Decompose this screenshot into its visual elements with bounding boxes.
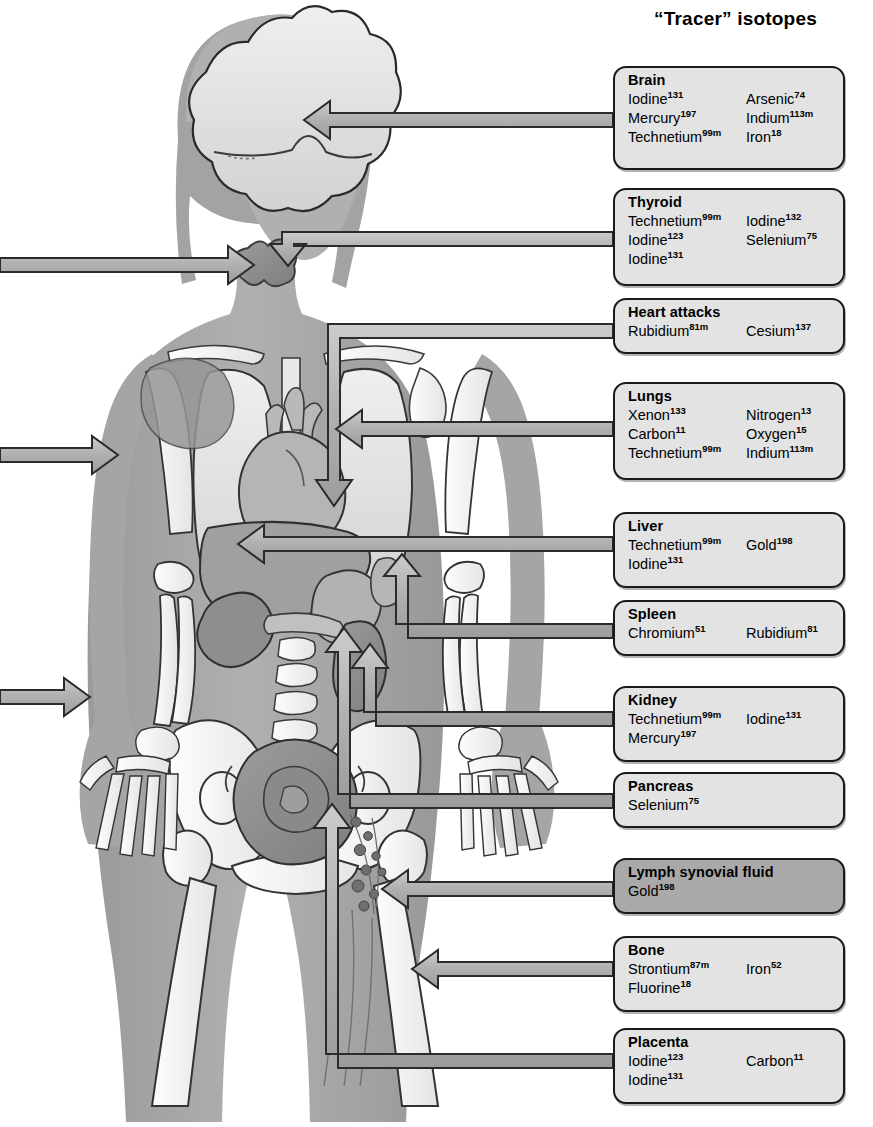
arrow-left-arm-upper <box>0 436 118 474</box>
isotope: Iron18 <box>746 128 843 147</box>
isotope-box-thyroid[interactable]: Thyroid Technetium99mIodine132Iodine123S… <box>613 188 845 286</box>
isotope-row: Mercury197 <box>628 729 843 748</box>
isotope-row: Selenium75 <box>628 796 843 815</box>
isotope: Fluorine18 <box>628 979 746 998</box>
isotope-box-spleen[interactable]: Spleen Chromium51Rubidium81 <box>613 600 845 656</box>
isotope-empty <box>746 555 843 574</box>
isotope: Chromium51 <box>628 624 746 643</box>
isotope-row: Technetium99mIndium113m <box>628 444 843 463</box>
isotope-list: Technetium99mGold198Iodine131 <box>615 536 843 579</box>
isotope-box-pancreas[interactable]: Pancreas Selenium75 <box>613 772 845 828</box>
isotope-empty <box>746 979 843 998</box>
isotope-list: Xenon133Nitrogen13Carbon11Oxygen15Techne… <box>615 406 843 468</box>
isotope-list: Iodine123Carbon11Iodine131 <box>615 1052 843 1095</box>
isotope-row: Strontium87mIron52 <box>628 960 843 979</box>
isotope: Technetium99m <box>628 444 746 463</box>
isotope: Rubidium81 <box>746 624 843 643</box>
arrow-left-arm-lower <box>0 678 90 716</box>
organ-label: Lymph synovial fluid <box>615 860 843 882</box>
isotope-list: Technetium99mIodine132Iodine123Selenium7… <box>615 212 843 274</box>
isotope-row: Fluorine18 <box>628 979 843 998</box>
isotope-row: Technetium99mIodine132 <box>628 212 843 231</box>
isotope-list: Rubidium81mCesium137 <box>615 322 843 346</box>
isotope-list: Technetium99mIodine131Mercury197 <box>615 710 843 753</box>
isotope-box-lungs[interactable]: Lungs Xenon133Nitrogen13Carbon11Oxygen15… <box>613 382 845 480</box>
isotope-empty <box>746 729 843 748</box>
isotope: Iodine132 <box>746 212 843 231</box>
isotope: Rubidium81m <box>628 322 746 341</box>
isotope-row: Iodine131 <box>628 1071 843 1090</box>
isotope-row: Xenon133Nitrogen13 <box>628 406 843 425</box>
isotope-empty <box>746 882 843 901</box>
isotope: Carbon11 <box>746 1052 843 1071</box>
isotope-box-lymph-synovial-fluid[interactable]: Lymph synovial fluid Gold198 <box>613 858 845 914</box>
isotope: Technetium99m <box>628 212 746 231</box>
isotope: Xenon133 <box>628 406 746 425</box>
organ-label: Heart attacks <box>615 300 843 322</box>
isotope-box-heart-attacks[interactable]: Heart attacks Rubidium81mCesium137 <box>613 298 845 354</box>
isotope-box-liver[interactable]: Liver Technetium99mGold198Iodine131 <box>613 512 845 588</box>
isotope-box-kidney[interactable]: Kidney Technetium99mIodine131Mercury197 <box>613 686 845 762</box>
isotope-list: Chromium51Rubidium81 <box>615 624 843 648</box>
isotope-box-brain[interactable]: Brain Iodine131Arsenic74Mercury197Indium… <box>613 66 845 170</box>
isotope: Iodine131 <box>628 555 746 574</box>
arrow-left-thyroid <box>0 246 254 284</box>
isotope-empty <box>746 250 843 269</box>
isotope: Iodine123 <box>628 1052 746 1071</box>
isotope-row: Mercury197Indium113m <box>628 109 843 128</box>
isotope: Technetium99m <box>628 710 746 729</box>
organ-label: Bone <box>615 938 843 960</box>
isotope-row: Iodine131 <box>628 555 843 574</box>
isotope: Iodine131 <box>628 90 746 109</box>
isotope-row: Iodine131 <box>628 250 843 269</box>
organ-label: Spleen <box>615 602 843 624</box>
organ-label: Pancreas <box>615 774 843 796</box>
organ-label: Placenta <box>615 1030 843 1052</box>
organ-label: Thyroid <box>615 190 843 212</box>
isotope: Carbon11 <box>628 425 746 444</box>
isotope: Mercury197 <box>628 729 746 748</box>
isotope-row: Iodine131Arsenic74 <box>628 90 843 109</box>
isotope: Iodine131 <box>628 250 746 269</box>
isotope: Cesium137 <box>746 322 843 341</box>
isotope-list: Selenium75 <box>615 796 843 820</box>
isotope-list: Iodine131Arsenic74Mercury197Indium113mTe… <box>615 90 843 152</box>
isotope: Iodine131 <box>746 710 843 729</box>
organ-label: Liver <box>615 514 843 536</box>
isotope-row: Iodine123Carbon11 <box>628 1052 843 1071</box>
organ-label: Kidney <box>615 688 843 710</box>
isotope: Arsenic74 <box>746 90 843 109</box>
isotope-row: Chromium51Rubidium81 <box>628 624 843 643</box>
isotope-row: Technetium99mGold198 <box>628 536 843 555</box>
isotope-row: Iodine123Selenium75 <box>628 231 843 250</box>
isotope: Technetium99m <box>628 536 746 555</box>
isotope: Technetium99m <box>628 128 746 147</box>
isotope-row: Rubidium81mCesium137 <box>628 322 843 341</box>
organ-label: Lungs <box>615 384 843 406</box>
isotope-box-placenta[interactable]: Placenta Iodine123Carbon11Iodine131 <box>613 1028 845 1104</box>
isotope: Oxygen15 <box>746 425 843 444</box>
isotope: Iodine131 <box>628 1071 746 1090</box>
isotope-list: Strontium87mIron52Fluorine18 <box>615 960 843 1003</box>
tracer-isotope-diagram: “Tracer” isotopes <box>0 0 873 1127</box>
isotope-row: Technetium99mIron18 <box>628 128 843 147</box>
isotope: Gold198 <box>746 536 843 555</box>
isotope: Iron52 <box>746 960 843 979</box>
isotope-box-bone[interactable]: Bone Strontium87mIron52Fluorine18 <box>613 936 845 1012</box>
isotope: Strontium87m <box>628 960 746 979</box>
isotope: Mercury197 <box>628 109 746 128</box>
isotope: Indium113m <box>746 444 843 463</box>
isotope: Gold198 <box>628 882 746 901</box>
isotope: Nitrogen13 <box>746 406 843 425</box>
isotope-empty <box>746 796 843 815</box>
isotope: Indium113m <box>746 109 843 128</box>
isotope-row: Technetium99mIodine131 <box>628 710 843 729</box>
isotope: Iodine123 <box>628 231 746 250</box>
isotope-empty <box>746 1071 843 1090</box>
isotope-list: Gold198 <box>615 882 843 906</box>
arrow-bone <box>412 950 613 988</box>
isotope-row: Carbon11Oxygen15 <box>628 425 843 444</box>
organ-label: Brain <box>615 68 843 90</box>
isotope-row: Gold198 <box>628 882 843 901</box>
isotope: Selenium75 <box>628 796 746 815</box>
